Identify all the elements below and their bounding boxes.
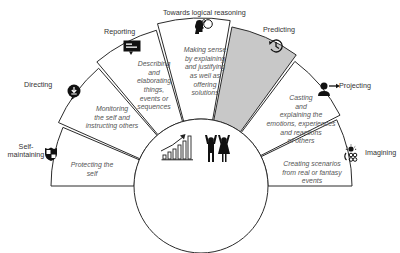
center-circle bbox=[134, 119, 268, 253]
person-arrow-icon bbox=[318, 82, 342, 98]
celebrating-people-icon bbox=[204, 134, 232, 164]
desc-self-maintaining: Protecting the self bbox=[62, 161, 122, 178]
label-self-maintaining: Self- maintaining bbox=[4, 143, 48, 160]
desc-imagining: Creating scenarios from real or fantasy … bbox=[276, 160, 348, 186]
growth-chart-icon bbox=[161, 132, 195, 162]
shield-icon bbox=[43, 146, 59, 162]
lightbulb-gears-icon bbox=[343, 144, 359, 164]
desc-logical-reasoning: Making sense by explaining and justifyin… bbox=[180, 46, 230, 98]
download-arrow-icon bbox=[67, 84, 81, 100]
clock-arrow-icon bbox=[268, 38, 284, 54]
fan-diagram bbox=[0, 0, 400, 253]
label-reporting: Reporting bbox=[104, 28, 135, 36]
head-thought-icon bbox=[193, 19, 215, 35]
speech-bubble-icon bbox=[123, 40, 141, 56]
desc-reporting: Describing and elaborating things, event… bbox=[128, 60, 180, 112]
desc-projecting: Casting and explaining the emotions, exp… bbox=[262, 94, 340, 146]
label-directing: Directing bbox=[24, 81, 52, 89]
label-projecting: Projecting bbox=[339, 82, 371, 90]
diagram-canvas: Self- maintaining Directing Reporting To… bbox=[0, 0, 400, 253]
label-predicting: Predicting bbox=[263, 26, 295, 34]
label-imagining: Imagining bbox=[365, 149, 396, 157]
label-logical-reasoning: Towards logical reasoning bbox=[163, 9, 246, 17]
